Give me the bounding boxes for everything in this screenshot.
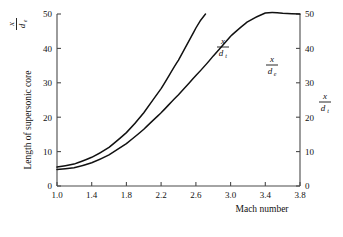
x-tick-3-0: 3.0 [225,190,237,200]
y-tick-left-50: 50 [43,9,53,19]
y-tick-right-0: 0 [305,181,310,191]
x-tick-3-8: 3.8 [294,190,306,200]
curve-label-de-subscript: e [274,71,277,77]
y-axis-left-ticks [57,14,61,186]
x-axis-ticks [57,182,300,186]
y-axis-right-ticks [296,14,300,186]
curve-label-x-over-de: x d e [266,54,278,77]
x-tick-2-2: 2.2 [155,190,166,200]
y-axis-fraction-numerator: x [6,22,16,27]
y-tick-right-50: 50 [305,9,315,19]
curve-label-de-denominator: d [268,66,273,76]
y-axis-title: Length of supersonic core [23,71,33,170]
y-tick-right-40: 40 [305,44,315,54]
figure-container: 0 10 20 30 40 50 0 10 20 30 40 50 1.0 1.… [0,0,343,237]
curve-label-dt-subscript: t [225,53,227,59]
y-axis-fraction-label: x d e [6,18,28,30]
y-axis-fraction-denominator: d [17,23,27,28]
y-tick-left-40: 40 [43,44,53,54]
y-axis-right-fraction-numerator: x [322,91,327,101]
y-tick-left-10: 10 [43,147,53,157]
x-tick-1-4: 1.4 [86,190,98,200]
x-tick-1-8: 1.8 [121,190,133,200]
chart-svg: 0 10 20 30 40 50 0 10 20 30 40 50 1.0 1.… [0,0,343,237]
y-tick-right-10: 10 [305,147,315,157]
x-tick-3-4: 3.4 [260,190,272,200]
y-tick-left-30: 30 [43,78,53,88]
y-axis-right-fraction-denominator: d [321,103,326,113]
x-axis-title: Mach number [235,204,289,214]
curve-label-dt-denominator: d [219,48,224,58]
curve-label-de-numerator: x [269,54,274,64]
y-tick-right-30: 30 [305,78,315,88]
curve-label-dt-numerator: x [220,36,225,46]
y-axis-right-fraction-subscript: t [327,108,329,114]
y-axis-right-fraction-label: x d t [319,91,331,114]
y-tick-right-20: 20 [305,113,315,123]
curve-x-over-de [57,13,300,170]
x-tick-2-6: 2.6 [190,190,202,200]
x-tick-1-0: 1.0 [51,190,63,200]
y-axis-fraction-subscript: e [22,19,28,22]
y-tick-left-20: 20 [43,113,53,123]
